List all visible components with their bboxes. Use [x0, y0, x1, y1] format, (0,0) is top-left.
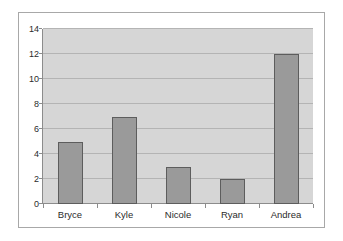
y-tick-mark	[39, 53, 42, 54]
bar-andrea[interactable]	[274, 54, 299, 204]
y-tick-label: 0	[19, 200, 39, 209]
chart-container: 02468101214 BryceKyleNicoleRyanAndrea	[18, 12, 325, 228]
y-tick-label: 10	[19, 75, 39, 84]
x-tick-label-bryce: Bryce	[43, 209, 97, 220]
y-tick-mark	[39, 28, 42, 29]
bar-slot	[97, 29, 151, 204]
y-tick-label: 4	[19, 150, 39, 159]
x-tick-mark	[97, 204, 98, 208]
y-tick-mark	[39, 178, 42, 179]
bar-nicole[interactable]	[166, 167, 191, 205]
x-tick-label-kyle: Kyle	[97, 209, 151, 220]
x-tick-mark	[43, 204, 44, 208]
y-axis: 02468101214	[19, 29, 39, 204]
y-tick-label: 14	[19, 25, 39, 34]
bar-series	[43, 29, 313, 204]
y-tick-label: 8	[19, 100, 39, 109]
x-tick-label-ryan: Ryan	[205, 209, 259, 220]
x-axis-labels: BryceKyleNicoleRyanAndrea	[43, 209, 313, 220]
y-tick-mark	[39, 203, 42, 204]
y-tick-mark	[39, 103, 42, 104]
y-tick-label: 2	[19, 175, 39, 184]
bar-ryan[interactable]	[220, 179, 245, 204]
x-tick-label-andrea: Andrea	[259, 209, 313, 220]
bar-bryce[interactable]	[58, 142, 83, 205]
bar-slot	[259, 29, 313, 204]
y-tick-label: 6	[19, 125, 39, 134]
x-tick-mark	[313, 204, 314, 208]
bar-slot	[205, 29, 259, 204]
bar-kyle[interactable]	[112, 117, 137, 205]
y-tick-mark	[39, 153, 42, 154]
x-axis-ticks	[43, 204, 313, 208]
y-tick-mark	[39, 128, 42, 129]
x-tick-label-nicole: Nicole	[151, 209, 205, 220]
bar-slot	[151, 29, 205, 204]
x-tick-mark	[259, 204, 260, 208]
x-tick-mark	[205, 204, 206, 208]
x-tick-mark	[151, 204, 152, 208]
y-tick-label: 12	[19, 50, 39, 59]
y-tick-mark	[39, 78, 42, 79]
bar-slot	[43, 29, 97, 204]
